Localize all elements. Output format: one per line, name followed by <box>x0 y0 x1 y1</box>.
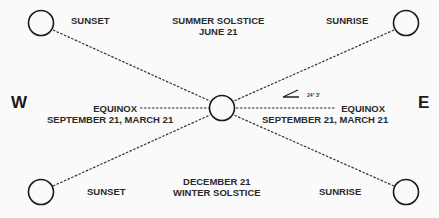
sun-center-icon <box>210 96 235 121</box>
angle-label: 24° 3' <box>307 92 320 98</box>
winter-solstice-label: DECEMBER 21 WINTER SOLSTICE <box>173 176 261 198</box>
equinox-left-title: EQUINOX <box>91 103 139 114</box>
sunrise-top-label: SUNRISE <box>326 15 368 26</box>
equinox-left-dates: SEPTEMBER 21, MARCH 21 <box>47 114 173 125</box>
summer-sunrise-line <box>234 30 394 101</box>
sunset-bottom-label: SUNSET <box>87 186 126 197</box>
sun-winter-sunset-icon <box>29 180 54 205</box>
equinox-right-title: EQUINOX <box>339 103 387 114</box>
equinox-left-label: EQUINOX SEPTEMBER 21, MARCH 21 <box>47 103 173 125</box>
west-label: W <box>11 93 27 113</box>
summer-sunset-line <box>53 30 210 101</box>
angle-icon <box>283 90 299 97</box>
sunset-top-label: SUNSET <box>71 15 110 26</box>
equinox-right-label: EQUINOX SEPTEMBER 21, MARCH 21 <box>262 103 388 125</box>
summer-solstice-title: SUMMER SOLSTICE <box>172 15 264 26</box>
sun-summer-sunset-icon <box>29 11 54 36</box>
winter-solstice-date: DECEMBER 21 <box>173 176 261 187</box>
summer-solstice-date: JUNE 21 <box>172 26 264 37</box>
summer-solstice-label: SUMMER SOLSTICE JUNE 21 <box>172 15 264 37</box>
east-label: E <box>418 93 429 113</box>
sunrise-bottom-label: SUNRISE <box>319 186 361 197</box>
sun-summer-sunrise-icon <box>394 11 419 36</box>
sun-winter-sunrise-icon <box>394 180 419 205</box>
winter-solstice-title: WINTER SOLSTICE <box>173 187 261 198</box>
equinox-right-dates: SEPTEMBER 21, MARCH 21 <box>262 114 388 125</box>
